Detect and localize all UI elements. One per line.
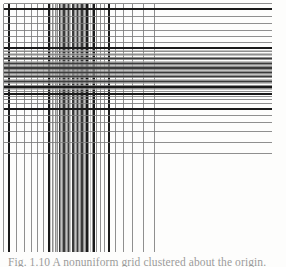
- figure-root: Fig. 1.10 A nonuniform grid clustered ab…: [0, 0, 286, 267]
- mesh-plot-area: [0, 0, 286, 256]
- figure-caption-text: Fig. 1.10 A nonuniform grid clustered ab…: [8, 256, 286, 267]
- figure-caption: Fig. 1.10 A nonuniform grid clustered ab…: [0, 256, 286, 267]
- nonuniform-grid-svg: [0, 0, 286, 256]
